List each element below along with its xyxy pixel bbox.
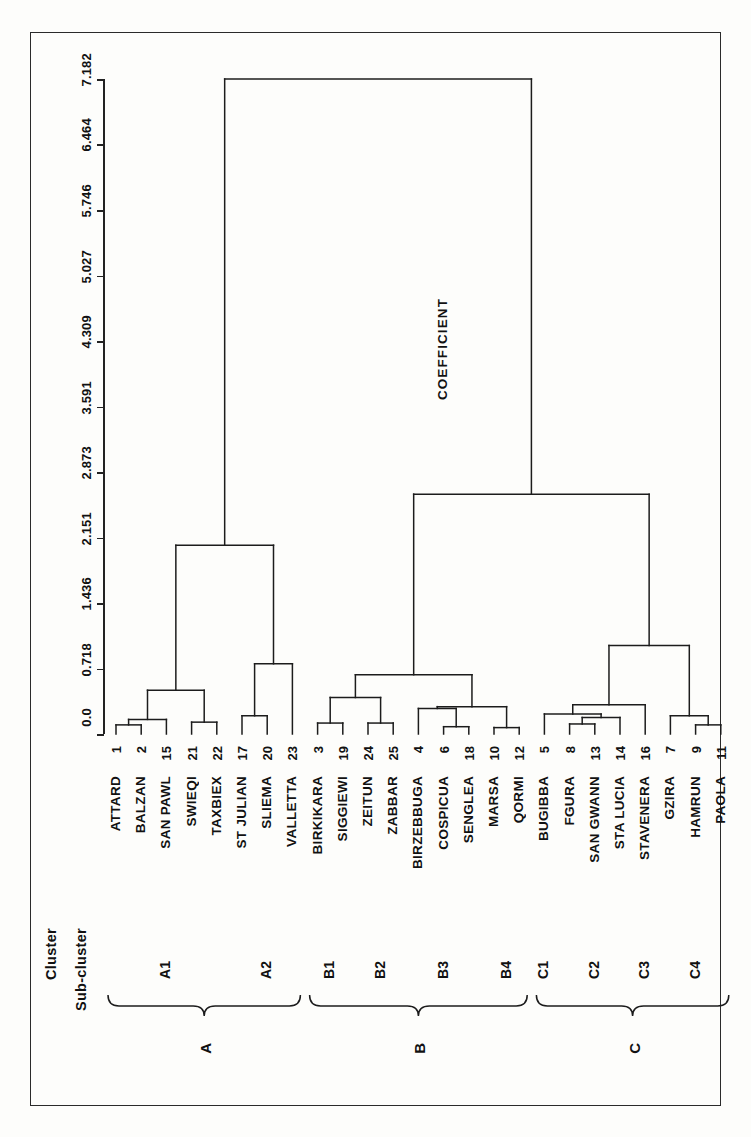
cluster-brace <box>108 995 300 1016</box>
figure-page: COEFFICIENT Cluster Sub-cluster 0.00.718… <box>0 0 751 1137</box>
figure-frame: COEFFICIENT Cluster Sub-cluster 0.00.718… <box>30 32 721 1106</box>
cluster-brace <box>536 995 728 1016</box>
cluster-braces <box>31 33 720 1105</box>
cluster-brace <box>310 995 528 1016</box>
